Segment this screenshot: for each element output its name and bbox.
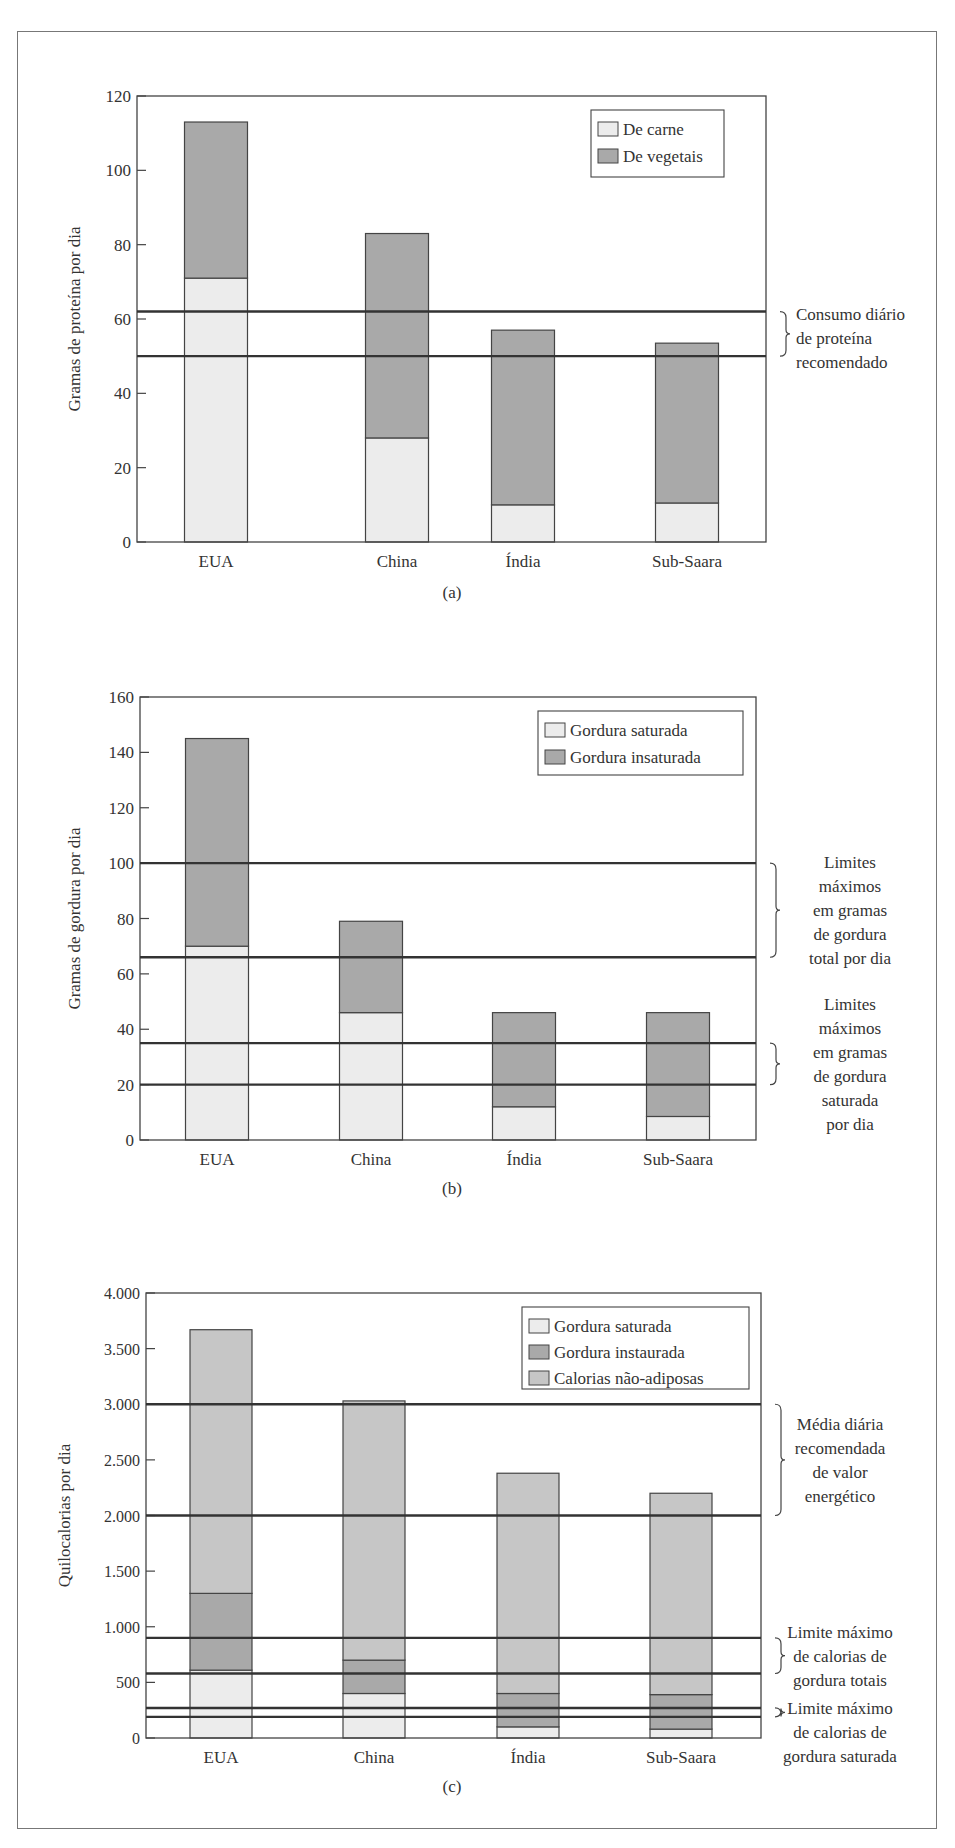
bar-segment-china-0 [340,1013,403,1140]
y-axis-label: Gramas de proteína por dia [65,226,84,411]
legend-swatch [529,1345,549,1359]
bar-segment-china-1 [366,234,429,438]
x-tick-label: EUA [199,552,235,571]
bar-segment--ndia-1 [493,1013,556,1107]
bar-segment-china-2 [343,1401,405,1660]
annotation-text: Limite máximode calorias degordura totai… [787,1623,892,1690]
bar-segment-sub-saara-0 [650,1729,712,1738]
chart-caption: (a) [443,583,462,602]
legend: Gordura saturadaGordura instauradaCalori… [522,1307,749,1389]
annotation-text: Limitesmáximosem gramasde gordurasaturad… [813,995,887,1134]
bar-segment--ndia-0 [493,1107,556,1140]
y-tick-label: 80 [114,236,131,255]
x-tick-label: China [377,552,418,571]
figure-charts: EUAChinaÍndiaSub-Saara020406080100120Gra… [0,0,955,1848]
bar-segment--ndia-0 [497,1727,559,1738]
y-tick-label: 3.000 [104,1396,140,1413]
annotation-text: Limitesmáximosem gramasde gorduratotal p… [809,853,892,968]
y-tick-label: 80 [117,910,134,929]
y-tick-label: 500 [116,1674,140,1691]
bars [185,122,719,542]
x-tick-label: Sub-Saara [652,552,722,571]
annotation-text: Limite máximode calorias degordura satur… [783,1699,897,1766]
y-tick-label: 4.000 [104,1285,140,1302]
bar-segment-china-1 [343,1660,405,1693]
bar-segment-sub-saara-1 [656,343,719,503]
bar-segment-china-0 [366,438,429,542]
annotation-text: Média diáriarecomendadade valorenergétic… [795,1415,886,1506]
bar-segment-eua-0 [185,278,248,542]
chart-caption: (c) [443,1777,462,1796]
y-tick-label: 0 [126,1131,135,1150]
legend-swatch [529,1371,549,1385]
bar-segment--ndia-0 [492,505,555,542]
legend-label: Gordura saturada [570,721,688,740]
chart-caption: (b) [442,1179,462,1198]
bar-segment-eua-0 [190,1670,252,1738]
bar-segment-china-1 [340,921,403,1012]
bar-segment-sub-saara-2 [650,1493,712,1694]
y-tick-label: 120 [109,799,135,818]
legend-label: De carne [623,120,684,139]
legend-label: Gordura insaturada [570,748,701,767]
bar-segment-eua-1 [190,1593,252,1670]
legend-label: Gordura instaurada [554,1343,685,1362]
brace-icon [770,863,780,957]
chart-a: EUAChinaÍndiaSub-Saara020406080100120Gra… [65,87,905,602]
charts-canvas: EUAChinaÍndiaSub-Saara020406080100120Gra… [0,0,955,1848]
x-tick-label: EUA [200,1150,236,1169]
y-tick-label: 100 [106,161,132,180]
bar-segment-sub-saara-1 [647,1013,710,1117]
bar-segment-eua-1 [186,739,249,947]
y-tick-label: 1.000 [104,1619,140,1636]
bar-segment--ndia-1 [497,1694,559,1727]
legend-swatch [529,1319,549,1333]
y-tick-label: 3.500 [104,1341,140,1358]
y-tick-label: 1.500 [104,1563,140,1580]
y-tick-label: 140 [109,743,135,762]
y-tick-label: 0 [123,533,132,552]
y-axis-label: Quilocalorias por dia [55,1443,74,1587]
brace-icon [780,312,790,357]
legend-swatch [598,122,618,136]
legend-label: De vegetais [623,147,703,166]
x-tick-label: Sub-Saara [643,1150,713,1169]
y-tick-label: 40 [117,1020,134,1039]
chart-b: EUAChinaÍndiaSub-Saara020406080100120140… [65,688,892,1198]
y-tick-label: 120 [106,87,132,106]
y-tick-label: 160 [109,688,135,707]
bar-segment-sub-saara-0 [647,1116,710,1140]
y-tick-label: 20 [117,1076,134,1095]
brace-icon [775,1638,785,1674]
y-tick-label: 100 [109,854,135,873]
x-tick-label: Índia [506,552,541,571]
legend-swatch [545,750,565,764]
brace-icon [770,1043,780,1085]
x-tick-label: Índia [511,1748,546,1767]
y-tick-label: 60 [117,965,134,984]
legend-label: Calorias não-adiposas [554,1369,704,1388]
x-tick-label: Sub-Saara [646,1748,716,1767]
y-tick-label: 0 [132,1730,140,1747]
legend: De carneDe vegetais [591,110,724,177]
bar-segment--ndia-2 [497,1473,559,1693]
x-tick-label: EUA [204,1748,240,1767]
x-tick-label: Índia [507,1150,542,1169]
legend-swatch [545,723,565,737]
y-tick-label: 2.000 [104,1508,140,1525]
legend: Gordura saturadaGordura insaturada [538,711,743,775]
y-tick-label: 60 [114,310,131,329]
x-tick-label: China [354,1748,395,1767]
bars [186,739,710,1140]
bar-segment-sub-saara-0 [656,503,719,542]
y-tick-label: 2.500 [104,1452,140,1469]
legend-label: Gordura saturada [554,1317,672,1336]
bar-segment-eua-2 [190,1330,252,1594]
annotation-text: Consumo diáriode proteínarecomendado [796,305,905,372]
bar-segment-eua-1 [185,122,248,278]
y-tick-label: 20 [114,459,131,478]
y-axis-label: Gramas de gordura por dia [65,827,84,1010]
brace-icon [775,1404,785,1515]
brace-icon [775,1708,785,1717]
bar-segment-sub-saara-1 [650,1695,712,1729]
